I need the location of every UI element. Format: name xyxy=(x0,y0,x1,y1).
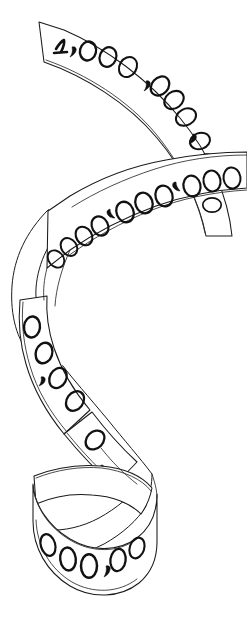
drawing-canvas: 1,000,000,000,000,000,000,000,000,000 xyxy=(0,0,247,619)
ribbon-illustration xyxy=(0,0,247,619)
